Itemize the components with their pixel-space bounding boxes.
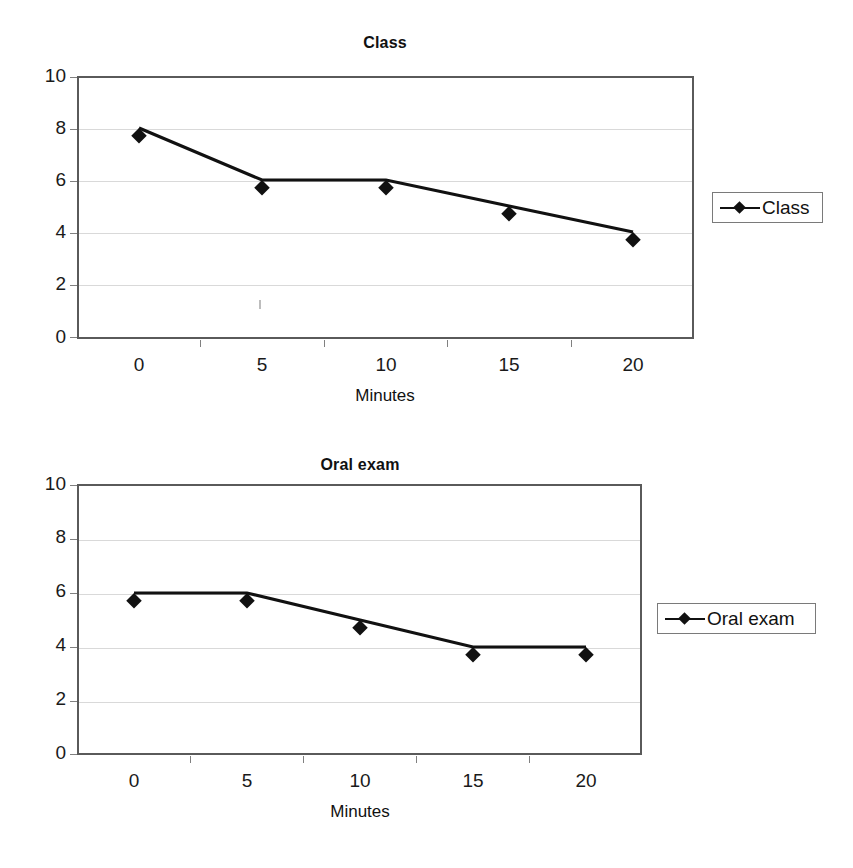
- xtick-label-oral-0: 0: [94, 770, 174, 792]
- xtick-mark-oral-1: [190, 756, 191, 763]
- xtick-label-oral-10: 10: [320, 770, 400, 792]
- xtick-mark-oral-3: [416, 756, 417, 763]
- xtick-mark-class-1: [200, 340, 201, 347]
- xtick-label-class-0: 0: [99, 354, 179, 376]
- xtick-label-oral-5: 5: [207, 770, 287, 792]
- legend-label-class: Class: [760, 197, 810, 219]
- xtick-label-class-15: 15: [469, 354, 549, 376]
- xtick-label-class-10: 10: [346, 354, 426, 376]
- chart-page: Class 10 8 6 4 2 0: [0, 0, 853, 868]
- legend-class[interactable]: Class: [712, 192, 823, 223]
- chart-oral-exam: Oral exam 10 8 6 4 2 0: [0, 434, 853, 868]
- legend-marker-icon: [720, 200, 760, 216]
- xaxis-title-oral: Minutes: [220, 802, 500, 822]
- legend-label-oral: Oral exam: [705, 608, 795, 630]
- legend-marker-icon: [665, 611, 705, 627]
- xtick-mark-class-3: [447, 340, 448, 347]
- xtick-mark-class-2: [324, 340, 325, 347]
- xtick-label-class-20: 20: [593, 354, 673, 376]
- xtick-label-class-5: 5: [222, 354, 302, 376]
- xtick-mark-oral-4: [529, 756, 530, 763]
- xtick-label-oral-15: 15: [433, 770, 513, 792]
- xaxis-title-class: Minutes: [245, 386, 525, 406]
- xtick-mark-oral-2: [303, 756, 304, 763]
- chart-class: Class 10 8 6 4 2 0: [0, 0, 853, 434]
- xtick-label-oral-20: 20: [546, 770, 626, 792]
- xtick-mark-class-4: [571, 340, 572, 347]
- legend-oral[interactable]: Oral exam: [657, 603, 816, 634]
